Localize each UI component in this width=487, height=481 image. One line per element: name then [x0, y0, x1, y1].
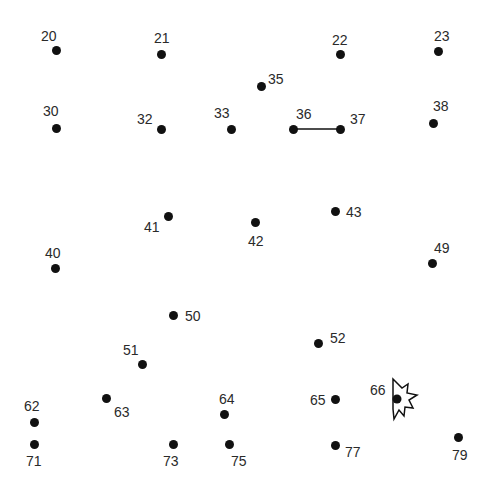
dot-50[interactable] [169, 311, 178, 320]
dot-label-49: 49 [434, 241, 450, 255]
dot-label-35: 35 [268, 72, 284, 86]
dot-label-73: 73 [163, 454, 179, 468]
dot-64[interactable] [220, 410, 229, 419]
dot-label-63: 63 [114, 405, 130, 419]
dot-33[interactable] [227, 125, 236, 134]
dot-43[interactable] [331, 207, 340, 216]
dot-41[interactable] [164, 212, 173, 221]
dot-label-43: 43 [346, 205, 362, 219]
dot-label-64: 64 [219, 392, 235, 406]
starburst-cursor-icon [0, 0, 487, 481]
dot-32[interactable] [157, 125, 166, 134]
dot-label-42: 42 [248, 234, 264, 248]
dot-22[interactable] [336, 50, 345, 59]
dot-label-36: 36 [296, 107, 312, 121]
dot-label-79: 79 [452, 448, 468, 462]
dot-label-21: 21 [154, 31, 170, 45]
dot-label-66: 66 [370, 383, 386, 397]
connection-lines-layer [0, 0, 487, 481]
dot-label-32: 32 [137, 112, 153, 126]
dot-77[interactable] [331, 441, 340, 450]
dot-63[interactable] [102, 394, 111, 403]
dot-label-33: 33 [214, 106, 230, 120]
dot-62[interactable] [30, 418, 39, 427]
dot-label-51: 51 [123, 343, 139, 357]
dot-36[interactable] [289, 125, 298, 134]
dot-label-20: 20 [41, 29, 57, 43]
dot-40[interactable] [51, 264, 60, 273]
dot-label-50: 50 [185, 309, 201, 323]
dot-42[interactable] [251, 218, 260, 227]
dot-71[interactable] [30, 440, 39, 449]
dot-label-77: 77 [345, 445, 361, 459]
dot-49[interactable] [428, 259, 437, 268]
dot-label-37: 37 [350, 112, 366, 126]
dot-label-71: 71 [26, 454, 42, 468]
dot-label-65: 65 [310, 393, 326, 407]
dot-79[interactable] [454, 433, 463, 442]
dot-35[interactable] [257, 82, 266, 91]
dot-51[interactable] [138, 360, 147, 369]
dot-20[interactable] [52, 46, 61, 55]
dot-label-62: 62 [24, 399, 40, 413]
dot-label-38: 38 [433, 99, 449, 113]
dot-label-23: 23 [434, 29, 450, 43]
dot-23[interactable] [434, 47, 443, 56]
dot-21[interactable] [157, 50, 166, 59]
dot-52[interactable] [314, 339, 323, 348]
dot-75[interactable] [225, 440, 234, 449]
dot-label-75: 75 [231, 454, 247, 468]
dot-30[interactable] [52, 124, 61, 133]
dot-73[interactable] [169, 440, 178, 449]
dot-38[interactable] [429, 119, 438, 128]
dot-66[interactable] [393, 395, 402, 404]
dot-label-41: 41 [144, 220, 160, 234]
dot-label-40: 40 [45, 246, 61, 260]
dot-label-22: 22 [332, 33, 348, 47]
dot-label-30: 30 [43, 104, 59, 118]
dot-37[interactable] [336, 125, 345, 134]
dot-label-52: 52 [330, 331, 346, 345]
dot-65[interactable] [331, 395, 340, 404]
dot-puzzle-board: 2021222335303233363738414243404950525163… [0, 0, 487, 481]
